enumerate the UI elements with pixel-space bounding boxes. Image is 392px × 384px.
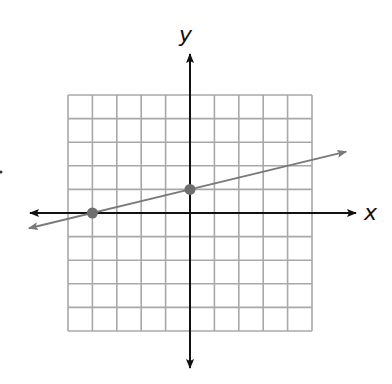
scan-artifact-dot [0, 171, 3, 174]
line-segment [190, 152, 346, 190]
point-y-intercept [185, 184, 196, 195]
point-x-intercept [87, 208, 98, 219]
y-axis-label: y [178, 22, 193, 47]
x-axis-label: x [363, 200, 378, 225]
coordinate-graph: x y [0, 0, 392, 384]
